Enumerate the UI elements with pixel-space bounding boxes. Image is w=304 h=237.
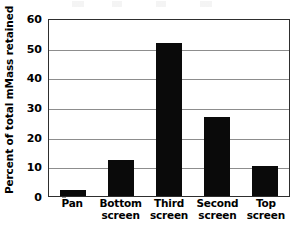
- x-axis-tick-label: Pan: [48, 198, 96, 222]
- y-axis-tick-label: 40: [27, 73, 42, 84]
- bar-slot: [49, 20, 97, 196]
- x-axis-tick-label-line2: screen: [145, 210, 193, 222]
- x-axis-tick-label-line2: screen: [242, 210, 290, 222]
- y-axis-tick-label: 60: [27, 14, 42, 25]
- bar-slot: [97, 20, 145, 196]
- x-axis-tick-label: Bottomscreen: [96, 198, 144, 222]
- y-axis-tick-label: 0: [34, 192, 42, 203]
- bars-layer: [49, 20, 289, 196]
- x-axis-tick-label-line1: Bottom: [100, 197, 142, 209]
- y-axis-tick-label: 50: [27, 43, 42, 54]
- bar: [204, 117, 230, 196]
- x-axis-tick-label-line2: screen: [193, 210, 241, 222]
- x-axis-tick-label-line1: Top: [256, 197, 276, 209]
- x-axis-tick-label: Thirdscreen: [145, 198, 193, 222]
- x-axis-tick-label-line1: Second: [196, 197, 238, 209]
- x-axis-tick-labels: PanBottomscreenThirdscreenSecondscreenTo…: [48, 198, 290, 222]
- x-axis-tick-label: Topscreen: [242, 198, 290, 222]
- x-axis-tick-label: Secondscreen: [193, 198, 241, 222]
- bar: [108, 160, 134, 196]
- y-axis-title-label: Percent of total mMass retained: [3, 6, 15, 194]
- bar: [60, 190, 86, 196]
- plot-area: [48, 19, 290, 197]
- y-axis-tick-label: 10: [27, 162, 42, 173]
- bar: [252, 166, 278, 196]
- x-axis-tick-label-line2: screen: [96, 210, 144, 222]
- y-axis-tick-label: 30: [27, 103, 42, 114]
- x-axis-tick-label-line1: Pan: [62, 197, 83, 209]
- bar: [156, 43, 182, 196]
- bar-slot: [145, 20, 193, 196]
- bar-chart-figure: Percent of total mMass retained 01020304…: [0, 0, 304, 237]
- bar-slot: [193, 20, 241, 196]
- y-axis-tick-label: 20: [27, 132, 42, 143]
- bar-slot: [241, 20, 289, 196]
- caption-remnant-artifact: [60, 1, 260, 7]
- x-axis-tick-label-line1: Third: [154, 197, 184, 209]
- y-axis-title: Percent of total mMass retained: [0, 0, 18, 200]
- y-axis-tick-labels: 0102030405060: [18, 12, 44, 202]
